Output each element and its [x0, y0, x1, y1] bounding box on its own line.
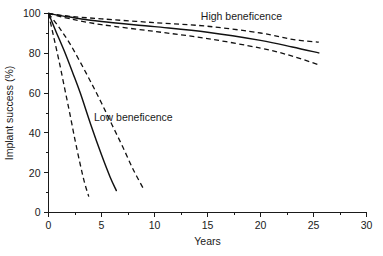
x-tick-label: 30 — [361, 219, 373, 231]
x-tick-label: 20 — [255, 219, 267, 231]
y-tick-label: 80 — [29, 47, 41, 59]
chart-annotations: High beneficenceLow beneficence — [94, 10, 282, 122]
x-tick-label: 5 — [99, 219, 105, 231]
y-tick-label: 60 — [29, 87, 41, 99]
annotation-label-high-beneficence: High beneficence — [201, 10, 282, 22]
y-tick-label: 20 — [29, 167, 41, 179]
series-line-low-solid — [49, 14, 117, 191]
y-axis-tick-labels: 020406080100 — [23, 7, 41, 218]
x-tick-label: 0 — [46, 219, 52, 231]
x-axis-major-ticks — [49, 213, 367, 218]
series-line-low-dashed — [49, 14, 144, 190]
implant-success-line-chart: 051015202530 020406080100 High beneficen… — [0, 0, 383, 256]
x-axis-tick-labels: 051015202530 — [46, 219, 373, 231]
y-tick-label: 0 — [35, 206, 41, 218]
chart-series-group — [49, 14, 319, 197]
x-tick-label: 10 — [149, 219, 161, 231]
y-tick-label: 100 — [23, 7, 41, 19]
x-axis-title: Years — [194, 235, 220, 247]
y-tick-label: 40 — [29, 127, 41, 139]
chart-axes — [44, 14, 367, 218]
y-axis-title: Implant success (%) — [3, 66, 15, 161]
chart-figure: 051015202530 020406080100 High beneficen… — [0, 0, 383, 256]
x-tick-label: 15 — [202, 219, 214, 231]
annotation-label-low-beneficence: Low beneficence — [94, 111, 173, 123]
x-tick-label: 25 — [308, 219, 320, 231]
